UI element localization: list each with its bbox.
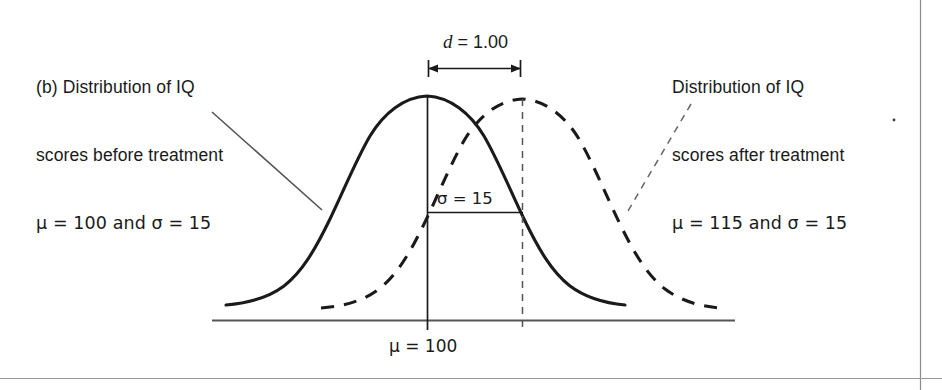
- mean-axis-label: μ = 100: [389, 335, 457, 357]
- curve-before-treatment: [226, 96, 625, 305]
- curve-after-treatment: [321, 99, 720, 308]
- figure-container: (b) Distribution of IQ scores before tre…: [0, 0, 942, 390]
- leader-line-left: [212, 112, 322, 210]
- effect-size-value: = 1.00: [453, 32, 509, 52]
- caption-after-line-1: Distribution of IQ: [672, 76, 847, 99]
- caption-before-treatment: (b) Distribution of IQ scores before tre…: [36, 30, 223, 280]
- caption-after-line-3: μ = 115 and σ = 15: [672, 212, 847, 235]
- sigma-label: σ = 15: [437, 188, 493, 209]
- caption-before-line-3: μ = 100 and σ = 15: [36, 212, 223, 235]
- caption-before-line-2: scores before treatment: [36, 144, 223, 167]
- effect-size-symbol: d: [443, 31, 453, 52]
- effect-size-arrow: [428, 60, 521, 77]
- effect-size-label: d = 1.00: [443, 30, 508, 55]
- caption-before-line-1: (b) Distribution of IQ: [36, 76, 223, 99]
- caption-after-line-2: scores after treatment: [672, 144, 847, 167]
- caption-after-treatment: Distribution of IQ scores after treatmen…: [672, 30, 847, 280]
- scan-speck: [893, 119, 896, 122]
